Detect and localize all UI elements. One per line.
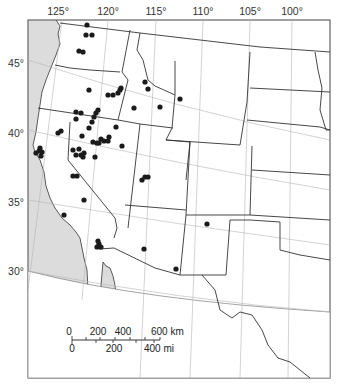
occurrence-point (145, 86, 150, 91)
scale-mi-0: 0 (69, 343, 75, 354)
occurrence-point (58, 128, 63, 133)
occurrence-point (92, 154, 97, 159)
occurrence-point (142, 79, 147, 84)
scale-mi-400: 400 mi (144, 343, 174, 354)
longitude-label: 120° (97, 5, 119, 17)
longitude-label: 115° (146, 5, 167, 17)
occurrence-point (89, 32, 94, 37)
latitude-label: 40° (8, 127, 24, 139)
occurrence-point (145, 174, 150, 179)
latitude-labels: 45°40°35°30° (8, 57, 24, 277)
occurrence-point (78, 110, 83, 115)
occurrence-point (118, 85, 123, 90)
latitude-label: 45° (8, 57, 24, 69)
occurrence-point (80, 154, 85, 159)
occurrence-point (83, 32, 88, 37)
occurrence-point (74, 173, 79, 178)
occurrence-point (79, 133, 84, 138)
occurrence-point (38, 153, 43, 158)
occurrence-point (110, 92, 115, 97)
longitude-labels: 125°120°115°110°105°100° (47, 5, 303, 17)
scale-km-200: 200 (90, 326, 107, 337)
latitude-label: 35° (8, 196, 24, 208)
scale-km-600: 600 km (151, 326, 184, 337)
occurrence-point (80, 49, 85, 54)
longitude-label: 125° (47, 5, 69, 17)
occurrence-point (173, 266, 178, 271)
occurrence-point (113, 124, 118, 129)
longitude-label: 105° (239, 5, 261, 17)
occurrence-point (131, 105, 136, 110)
map-western-us: 125°120°115°110°105°100° 45°40°35°30° 0 … (0, 0, 337, 391)
occurrence-point (157, 104, 162, 109)
occurrence-point (86, 125, 91, 130)
occurrence-point (84, 22, 89, 27)
scale-mi-200: 200 (106, 343, 123, 354)
scale-km-0: 0 (66, 326, 72, 337)
occurrence-point (37, 145, 42, 150)
latitude-label: 30° (8, 265, 24, 277)
occurrence-point (61, 212, 66, 217)
occurrence-point (90, 139, 95, 144)
occurrence-point (73, 152, 78, 157)
occurrence-point (33, 150, 38, 155)
occurrence-point (91, 114, 96, 119)
occurrence-point (89, 119, 94, 124)
occurrence-point (141, 246, 146, 251)
occurrence-point (204, 221, 209, 226)
occurrence-point (73, 116, 78, 121)
occurrence-point (73, 109, 78, 114)
occurrence-point (177, 96, 182, 101)
occurrence-point (86, 87, 91, 92)
occurrence-point (105, 92, 110, 97)
occurrence-point (81, 197, 86, 202)
longitude-label: 100° (281, 5, 303, 17)
occurrence-point (76, 146, 81, 151)
occurrence-point (95, 107, 100, 112)
scale-km-400: 400 (115, 326, 132, 337)
longitude-label: 110° (193, 5, 214, 17)
occurrence-point (119, 143, 124, 148)
occurrence-point (98, 244, 103, 249)
occurrence-point (95, 238, 100, 243)
occurrence-point (70, 147, 75, 152)
occurrence-point (105, 138, 110, 143)
